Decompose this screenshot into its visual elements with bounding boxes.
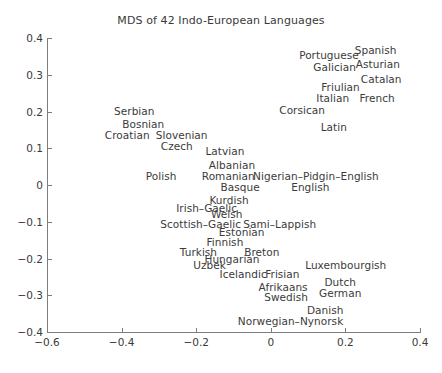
data-point-label: Croatian — [105, 129, 150, 141]
y-tick-label: −0.3 — [18, 289, 44, 301]
chart-title: MDS of 42 Indo-European Languages — [0, 14, 442, 27]
data-point-label: French — [359, 92, 394, 104]
data-point-label: Portuguese — [299, 49, 359, 61]
x-tick-label: −0.4 — [109, 336, 135, 348]
x-axis-line — [47, 332, 421, 333]
y-tick-label: −0.2 — [18, 253, 44, 265]
y-tick-label: −0.1 — [18, 216, 44, 228]
y-tick-label: 0.2 — [26, 106, 43, 118]
data-point-label: Norwegian–Nynorsk — [238, 315, 343, 327]
data-point-label: Czech — [161, 140, 193, 152]
data-point-label: German — [319, 287, 361, 299]
data-point-label: Basque — [221, 181, 260, 193]
y-tick-mark — [48, 332, 52, 333]
data-point-label: Catalan — [361, 73, 402, 85]
data-point-label: Icelandic — [220, 268, 267, 280]
data-point-label: Latin — [321, 121, 347, 133]
mds-scatter-plot: MDS of 42 Indo-European Languages 0.40.3… — [0, 0, 442, 373]
data-point-label: Corsican — [279, 104, 325, 116]
data-point-label: Polish — [146, 170, 177, 182]
y-tick-label: 0.1 — [26, 142, 43, 154]
x-tick-label: 0 — [267, 336, 274, 348]
x-tick-mark — [420, 328, 421, 332]
data-point-label: English — [291, 181, 329, 193]
x-tick-label: −0.2 — [183, 336, 209, 348]
data-point-label: Italian — [316, 92, 349, 104]
data-point-label: Asturian — [356, 58, 400, 70]
data-point-label: Latvian — [205, 145, 244, 157]
x-tick-label: 0.2 — [337, 336, 354, 348]
data-point-label: Luxembourgish — [305, 259, 386, 271]
data-point-label: Serbian — [114, 105, 154, 117]
y-tick-label: 0.3 — [26, 69, 43, 81]
data-point-label: Spanish — [355, 44, 397, 56]
data-point-label: Galician — [313, 61, 356, 73]
x-tick-label: 0.4 — [412, 336, 429, 348]
x-tick-label: −0.6 — [34, 336, 60, 348]
y-tick-label: 0.4 — [26, 32, 43, 44]
data-point-label: Frisian — [265, 268, 299, 280]
y-tick-label: 0 — [36, 179, 43, 191]
data-point-label: Swedish — [264, 291, 308, 303]
